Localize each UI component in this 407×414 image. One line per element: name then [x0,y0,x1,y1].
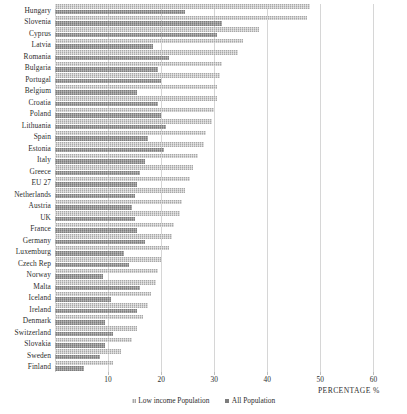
bar-low-income-population [55,280,156,285]
bar-row: Lithuania [55,119,384,131]
category-label: Ireland [29,304,51,313]
bar-all-population [55,205,132,210]
category-label: Denmark [23,316,51,325]
x-tick-label: 40 [264,375,271,384]
bar-all-population [55,90,137,95]
bar-row: EU 27 [55,177,384,189]
bar-low-income-population [55,50,238,55]
bar-row: Luxemburg [55,246,384,258]
bar-all-population [55,309,137,314]
bar-low-income-population [55,246,169,251]
bar-row: France [55,223,384,235]
bar-row: Austria [55,200,384,212]
bar-low-income-population [55,142,204,147]
bar-low-income-population [55,108,214,113]
bar-low-income-population [55,349,121,354]
bar-all-population [55,263,129,268]
bar-all-population [55,182,137,187]
bar-all-population [55,67,158,72]
category-label: Hungary [24,5,51,14]
category-label: Belgium [25,86,51,95]
bar-row: Slovakia [55,338,384,350]
bar-low-income-population [55,303,148,308]
bar-low-income-population [55,154,198,159]
bar-row: UK [55,211,384,223]
bar-all-population [55,320,105,325]
bar-row: Estonia [55,142,384,154]
x-axis: 102030405060 [55,372,384,386]
bar-all-population [55,136,148,141]
bar-row: Croatia [55,96,384,108]
bar-low-income-population [55,338,132,343]
bar-all-population [55,44,153,49]
bar-low-income-population [55,27,259,32]
category-label: Croatia [29,97,51,106]
bar-row: Czech Rep [55,257,384,269]
bar-low-income-population [55,96,217,101]
legend-label: Low income Population [138,396,209,405]
bar-row: Latvia [55,39,384,51]
bar-low-income-population [55,4,310,9]
bar-all-population [55,251,124,256]
x-axis-title: PERCENTAGE % [318,386,380,395]
bar-all-population [55,113,161,118]
bar-row: Denmark [55,315,384,327]
bar-all-population [55,125,166,130]
bar-low-income-population [55,165,193,170]
bar-row: Ireland [55,303,384,315]
bar-all-population [55,286,140,291]
bar-row: Cyprus [55,27,384,39]
category-label: Poland [30,109,51,118]
category-label: Italy [37,155,51,164]
bar-all-population [55,171,140,176]
bar-all-population [55,217,135,222]
bar-all-population [55,228,137,233]
category-label: Iceland [29,293,51,302]
bar-row: Finland [55,361,384,373]
category-label: Sweden [27,350,51,359]
bar-low-income-population [55,73,220,78]
bar-all-population [55,274,103,279]
bar-low-income-population [55,211,180,216]
bar-all-population [55,297,111,302]
category-label: Czech Rep [18,258,51,267]
legend-label: All Population [232,396,275,405]
category-label: Norway [27,270,51,279]
legend-item-low-income: Low income Population [132,396,210,405]
category-label: Slovenia [24,17,51,26]
category-label: Switzerland [15,327,51,336]
bar-low-income-population [55,200,182,205]
category-label: EU 27 [31,178,51,187]
bar-all-population [55,79,161,84]
bar-low-income-population [55,62,222,67]
bar-low-income-population [55,131,206,136]
category-label: Austria [29,201,51,210]
x-tick-label: 10 [104,375,111,384]
bar-all-population [55,343,105,348]
x-tick-label: 50 [317,375,324,384]
bar-low-income-population [55,326,137,331]
bar-row: Slovenia [55,16,384,28]
bar-chart: HungarySloveniaCyprusLatviaRomaniaBulgar… [0,0,407,414]
bar-all-population [55,56,169,61]
bar-low-income-population [55,315,143,320]
chart-title [55,0,385,1]
bar-row: Netherlands [55,188,384,200]
bar-row: Belgium [55,85,384,97]
category-label: Greece [29,166,51,175]
bar-low-income-population [55,177,190,182]
bar-low-income-population [55,188,185,193]
category-label: Cyprus [29,28,51,37]
bar-row: Greece [55,165,384,177]
bar-low-income-population [55,85,217,90]
legend-item-all-population: All Population [225,396,275,405]
category-label: Malta [33,281,51,290]
bar-row: Switzerland [55,326,384,338]
bar-low-income-population [55,119,212,124]
bar-row: Romania [55,50,384,62]
category-label: Portugal [25,74,51,83]
bar-row: Malta [55,280,384,292]
bar-low-income-population [55,292,151,297]
bar-all-population [55,240,145,245]
bar-low-income-population [55,269,158,274]
